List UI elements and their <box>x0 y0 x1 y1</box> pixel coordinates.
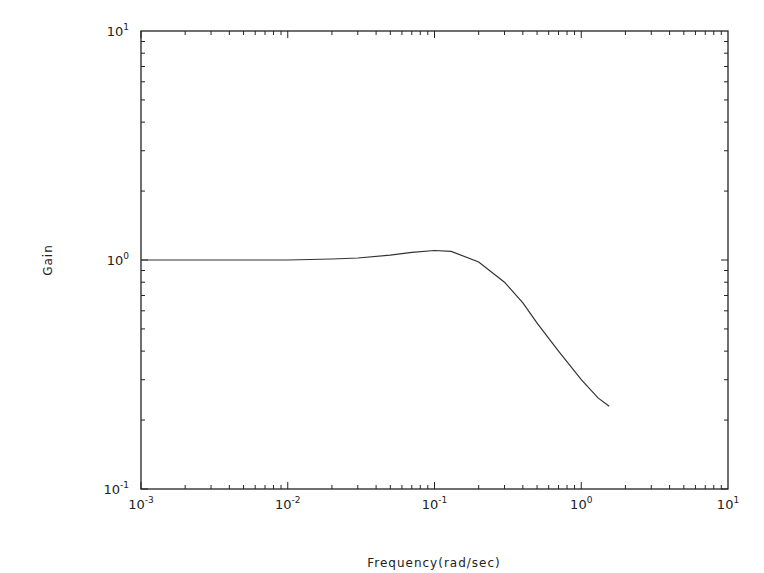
x-tick-label: 100 <box>570 495 593 512</box>
y-axis-title: Gain <box>41 244 55 276</box>
x-axis-tick-labels: 10-310-210-1100101 <box>128 495 739 512</box>
y-axis-ticks <box>141 41 728 489</box>
y-tick-label: 10-1 <box>103 480 129 497</box>
x-tick-label: 10-3 <box>128 495 154 512</box>
y-tick-label: 101 <box>107 22 129 39</box>
x-axis-title: Frequency(rad/sec) <box>367 556 501 570</box>
y-axis-tick-labels: 10-1100101 <box>103 22 129 497</box>
x-tick-label: 10-2 <box>275 495 301 512</box>
x-tick-label: 10-1 <box>422 495 448 512</box>
x-tick-label: 101 <box>717 495 739 512</box>
bode-gain-chart: 10-310-210-1100101 10-1100101 Frequency(… <box>0 0 764 573</box>
gain-curve <box>141 251 609 407</box>
y-tick-label: 100 <box>107 251 130 268</box>
